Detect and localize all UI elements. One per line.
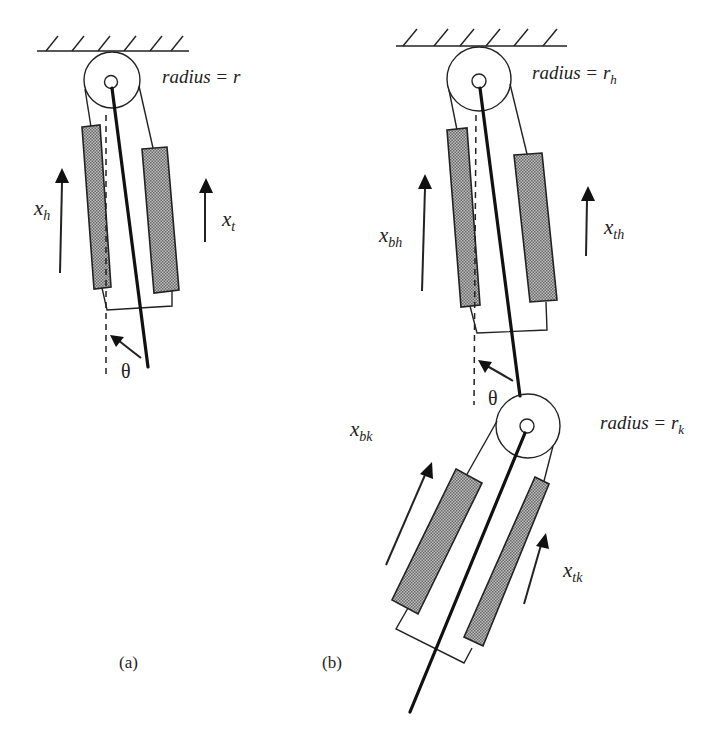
- muscle-right-a: [142, 147, 179, 293]
- hip-cable-left: [449, 90, 457, 130]
- panel-a: θ xh xt radius = r (a): [33, 36, 241, 672]
- caption-a: (a): [119, 653, 138, 672]
- angle-arrow-a: [110, 335, 141, 358]
- hip-muscle-right: [514, 153, 557, 302]
- arrow-xh: [55, 168, 69, 273]
- angle-label-a: θ: [121, 360, 131, 382]
- hip-pulley: [447, 47, 511, 111]
- radius-label-a: radius = r: [162, 66, 241, 87]
- cable-right-a: [139, 86, 153, 148]
- label-xbk: xbk: [349, 417, 373, 444]
- label-xh: xh: [33, 196, 50, 223]
- panel-b: θ xbh xth radius = rh: [322, 29, 684, 712]
- knee-pulley-hub: [520, 419, 534, 433]
- pulley-hub-a: [105, 76, 118, 89]
- hip-angle-arrow: [478, 360, 513, 381]
- knee-pulley: [496, 394, 560, 458]
- label-xtk: xtk: [562, 558, 583, 585]
- label-xbh: xbh: [378, 223, 402, 250]
- hip-vertical-reference: [474, 115, 476, 405]
- hip-angle-label: θ: [488, 387, 498, 409]
- label-xt: xt: [221, 207, 236, 234]
- thigh-link: [480, 88, 520, 396]
- label-xth: xth: [603, 215, 624, 242]
- arrow-xt: [199, 178, 213, 242]
- knee-cable-left: [466, 421, 497, 476]
- knee-muscle-left: [392, 469, 482, 614]
- arrow-xth: [581, 186, 595, 256]
- radius-label-knee: radius = rk: [600, 412, 684, 437]
- caption-b: (b): [322, 653, 342, 672]
- ceiling-ground-b: [396, 29, 567, 46]
- link-a: [112, 88, 148, 367]
- hip-pulley-hub: [472, 74, 486, 88]
- arrow-xbh: [418, 174, 432, 291]
- ceiling-ground-a: [37, 36, 189, 51]
- arrow-xtk: [524, 533, 549, 604]
- radius-label-hip: radius = rh: [532, 62, 617, 87]
- hip-cable-right: [510, 84, 527, 154]
- pulley-muscle-diagram: θ xh xt radius = r (a): [0, 0, 726, 743]
